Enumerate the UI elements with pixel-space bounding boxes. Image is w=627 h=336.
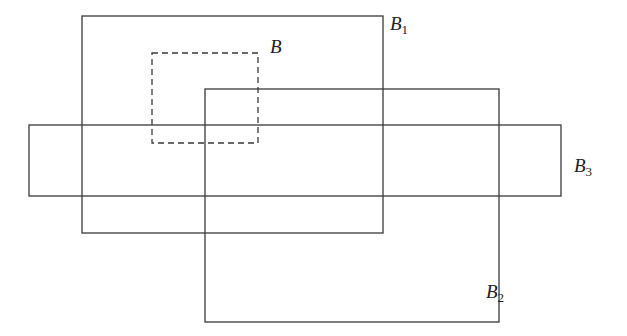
label-b2: B2: [486, 282, 504, 304]
box-b2: [205, 89, 499, 322]
diagram-canvas: [0, 0, 627, 336]
label-b1: B1: [390, 14, 408, 36]
label-b: B: [270, 37, 282, 56]
box-b3: [29, 125, 561, 196]
label-b3: B3: [574, 156, 592, 178]
